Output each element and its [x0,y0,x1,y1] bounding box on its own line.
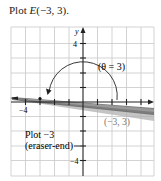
pencil [10,97,154,122]
point-label: (−3, 3) [104,117,130,128]
y-tick-4: 4 [73,40,77,49]
point-e-marker [38,97,41,100]
x-tick-neg4: −4 [19,106,28,115]
y-axis-label: y [74,27,79,36]
theta-label: (θ = 3) [98,61,125,73]
polar-plot-diagram: y 4 −4 −4 (θ = 3) (−3, 3) Plot −3 (erase… [0,0,161,181]
note-line-2: (eraser-end) [25,140,73,152]
note-line-1: Plot −3 [25,129,54,140]
axes [11,27,154,176]
y-tick-neg4: −4 [70,157,79,166]
